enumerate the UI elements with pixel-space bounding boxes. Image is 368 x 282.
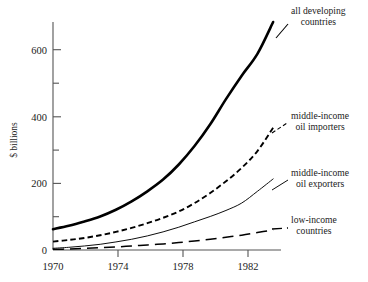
x-tick-label-1974: 1974 bbox=[108, 261, 130, 272]
x-axis-ticks bbox=[118, 250, 248, 257]
series-label-line-1: low-income bbox=[291, 214, 337, 225]
x-tick-label-1982: 1982 bbox=[238, 261, 259, 272]
series-label-low-income-countries: low-income countries bbox=[291, 214, 337, 237]
series-label-middle-income-oil-importers: middle-income oil importers bbox=[291, 110, 349, 133]
y-tick-label-400: 400 bbox=[31, 112, 47, 123]
series-line-low-income-countries bbox=[53, 230, 273, 249]
chart-figure: 600 400 200 0 1970 1974 1978 1982 $ bill… bbox=[0, 0, 368, 282]
series-label-line-2: oil importers bbox=[291, 121, 349, 132]
series-line-middle-income-oil-exporters bbox=[53, 179, 273, 248]
leader-line-oil-exporters bbox=[272, 180, 288, 190]
series-label-line-2: oil exporters bbox=[291, 178, 349, 189]
series-line-middle-income-oil-importers bbox=[53, 128, 273, 242]
y-axis-title: $ billions bbox=[9, 122, 19, 158]
line-chart-canvas: 600 400 200 0 1970 1974 1978 1982 $ bill… bbox=[0, 0, 368, 282]
y-axis-major-ticks bbox=[53, 50, 61, 184]
series-label-middle-income-oil-exporters: middle-income oil exporters bbox=[291, 167, 349, 190]
y-tick-label-0: 0 bbox=[42, 245, 47, 256]
leader-line-low-income bbox=[272, 228, 288, 229]
series-label-line-1: middle-income bbox=[291, 167, 349, 178]
series-label-all-developing-countries: all developing countries bbox=[291, 5, 346, 28]
series-label-line-2: countries bbox=[291, 225, 337, 236]
leader-line-all-developing bbox=[276, 24, 288, 38]
y-tick-label-200: 200 bbox=[31, 178, 47, 189]
series-line-all-developing-countries bbox=[53, 22, 273, 229]
y-tick-label-600: 600 bbox=[31, 45, 47, 56]
y-axis-minor-ticks bbox=[53, 83, 59, 217]
x-tick-label-1970: 1970 bbox=[43, 261, 64, 272]
series-label-line-1: middle-income bbox=[291, 110, 349, 121]
series-label-line-1: all developing bbox=[291, 5, 346, 16]
x-tick-label-1978: 1978 bbox=[173, 261, 194, 272]
leader-line-oil-importers bbox=[272, 123, 287, 133]
series-label-line-2: countries bbox=[291, 16, 346, 27]
